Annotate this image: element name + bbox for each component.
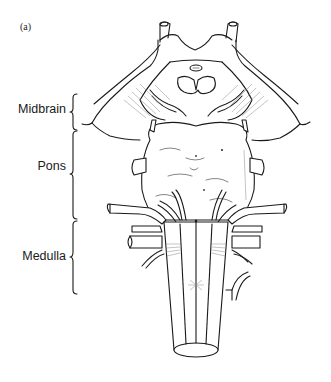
brace-medulla xyxy=(70,221,77,294)
midbrain-outline xyxy=(82,22,310,141)
brainstem-diagram: (a) Midbrain Pons Medulla xyxy=(0,0,331,382)
brainstem-drawing xyxy=(0,0,331,382)
brace-pons xyxy=(70,131,77,219)
brace-midbrain xyxy=(70,94,77,130)
pons xyxy=(132,120,264,220)
